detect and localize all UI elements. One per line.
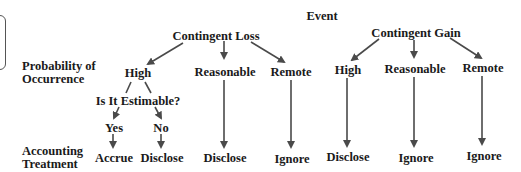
loss-remote: Remote bbox=[271, 65, 312, 79]
contingent-loss-label: Contingent Loss bbox=[172, 29, 259, 43]
yes-branch: Yes bbox=[105, 121, 123, 135]
treatment-gain-remote-ignore: Ignore bbox=[466, 149, 501, 163]
treatment-label-line2: Treatment bbox=[22, 158, 83, 171]
contingent-gain-label: Contingent Gain bbox=[371, 26, 460, 40]
arrow-loss-remote bbox=[251, 42, 284, 62]
treatment-accrue: Accrue bbox=[95, 151, 133, 165]
treatment-loss-reasonable-disclose: Disclose bbox=[203, 151, 246, 165]
estimable-question: Is It Estimable? bbox=[96, 94, 181, 108]
probability-label-line2: Occurrence bbox=[22, 73, 96, 86]
treatment-gain-high-disclose: Disclose bbox=[326, 150, 369, 164]
loss-reasonable: Reasonable bbox=[194, 65, 255, 79]
treatment-loss-no-disclose: Disclose bbox=[140, 151, 183, 165]
no-branch: No bbox=[153, 121, 168, 135]
gain-high: High bbox=[335, 63, 361, 77]
treatment-loss-remote-ignore: Ignore bbox=[274, 152, 309, 166]
event-title: Event bbox=[306, 9, 337, 23]
loss-high: High bbox=[125, 66, 151, 80]
treatment-gain-reasonable-ignore: Ignore bbox=[398, 151, 433, 165]
gain-reasonable: Reasonable bbox=[384, 62, 445, 76]
arrow-loss-high bbox=[148, 43, 183, 64]
treatment-row-label: Accounting Treatment bbox=[22, 145, 83, 171]
gain-remote: Remote bbox=[463, 61, 504, 75]
probability-row-label: Probability of Occurrence bbox=[22, 60, 96, 86]
